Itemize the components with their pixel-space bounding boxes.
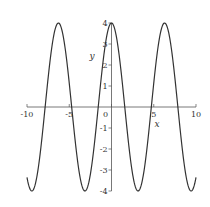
y-tick-label: 2 [102, 61, 107, 70]
axes [27, 23, 196, 191]
x-tick-label: -5 [65, 110, 73, 119]
x-axis-label: x [155, 119, 160, 129]
y-axis-label: y [89, 51, 96, 61]
x-tick-label: -10 [21, 110, 34, 119]
x-tick-label: 0 [103, 110, 108, 119]
axis-tick-labels: -10-50510-4-3-2-11234yx [21, 19, 202, 196]
y-tick-label: 3 [102, 40, 107, 49]
x-tick-label: 10 [191, 110, 201, 119]
y-tick-label: -1 [100, 124, 108, 133]
chart-plot: -10-50510-4-3-2-11234yx [0, 0, 210, 207]
x-tick-label: 5 [151, 110, 156, 119]
y-tick-label: -2 [100, 145, 108, 154]
y-tick-label: 4 [102, 19, 107, 28]
y-tick-label: 1 [102, 82, 107, 91]
y-tick-label: -3 [100, 166, 108, 175]
y-tick-label: -4 [100, 187, 108, 196]
